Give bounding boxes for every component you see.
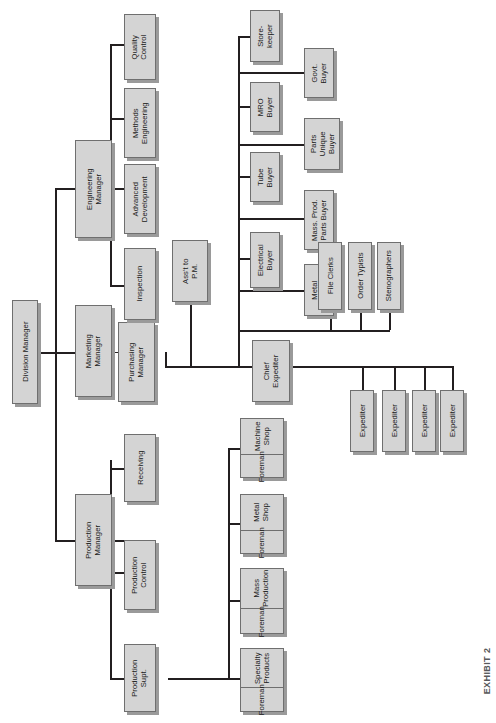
node-file-clerks[interactable]: File Clerks [318, 242, 342, 310]
connector-to-production-supt [110, 678, 124, 680]
node-label-line1: Production [131, 556, 140, 593]
node-label-line1: Production [84, 521, 93, 558]
node-label-line1: MRO [256, 98, 265, 116]
connector-to-marketing [55, 352, 75, 354]
node-expediter-4[interactable]: Expediter [440, 390, 464, 452]
node-marketing-manager[interactable]: Marketing Manager [75, 305, 112, 397]
node-expediter-2[interactable]: Expediter [382, 390, 406, 452]
node-expediter-1[interactable]: Expediter [350, 390, 374, 452]
connector-to-expediter-2 [394, 366, 396, 390]
node-label-line2: Supt. [140, 669, 149, 687]
node-electrical-buyer[interactable]: Electrical Buyer [250, 232, 280, 288]
node-order-typists[interactable]: Order Typists [348, 242, 372, 310]
node-label-line1: Quality [131, 35, 140, 59]
node-label-line2: Development [140, 176, 149, 222]
node-asst-to-pm[interactable]: Ass't to P.M. [172, 240, 208, 302]
node-label-line1: Engineering [84, 168, 93, 210]
shop-name-cell: Metal Shop [241, 495, 283, 532]
node-label-line1: Ass't to [181, 258, 190, 283]
node-inspection[interactable]: Inspection [124, 248, 156, 320]
node-mass-prod-parts-buyer[interactable]: Mass. Prod. Parts Buyer [304, 190, 334, 250]
node-label-line1: Electrical [256, 244, 265, 276]
exhibit-caption: EXHIBIT 2 [480, 623, 494, 719]
shop-foreman-cell: Foreman [241, 609, 283, 633]
node-parts-unique-buyer[interactable]: Parts Unique Buyer [304, 118, 340, 170]
shop-foreman-cell: Foreman [241, 688, 283, 712]
connector-to-methods-engineering [110, 118, 124, 120]
node-label-line1: Chief [262, 362, 271, 380]
organization-chart: Division Manager Engineering Manager Mar… [0, 0, 496, 723]
connector-to-engineering [55, 188, 75, 190]
node-storekeeper[interactable]: Store- keeper [250, 10, 280, 62]
node-label-line2: Products [262, 652, 271, 683]
connector-to-stenographers [389, 310, 391, 330]
connector-to-receiving [110, 468, 124, 470]
node-production-manager[interactable]: Production Manager [75, 494, 112, 586]
node-label-line2: Production [262, 570, 271, 607]
connector-to-electrical-buyer [238, 258, 250, 260]
connector-to-expediter-4 [452, 366, 454, 390]
node-label-line1: Machine [253, 422, 262, 451]
node-division-manager[interactable]: Division Manager [12, 300, 38, 404]
connector-to-mass-production [228, 600, 240, 602]
node-production-supt[interactable]: Production Supt. [124, 644, 156, 712]
node-stenographers[interactable]: Stenographers [377, 242, 401, 310]
node-govt-buyer[interactable]: Govt. Buyer [304, 48, 334, 98]
node-label: Order Typists [355, 253, 364, 299]
node-label-line3: Buyer [327, 134, 336, 154]
node-label-line1: Marketing [84, 334, 93, 368]
shop-name-cell: Mass Production [241, 569, 283, 610]
node-label-line2: Manager [94, 174, 103, 205]
node-label: Stenographers [384, 250, 393, 301]
node-foreman-label: Foreman [257, 684, 266, 715]
node-receiving[interactable]: Receiving [124, 434, 156, 502]
node-mro-buyer[interactable]: MRO Buyer [250, 82, 280, 132]
node-machine-shop[interactable]: Machine Shop Foreman [240, 418, 284, 478]
connector-buyers-spine [238, 36, 240, 366]
connector-to-expediter-3 [424, 366, 426, 390]
node-chief-expediter[interactable]: Chief Expediter [252, 340, 290, 402]
node-mass-production[interactable]: Mass Production Foreman [240, 568, 284, 634]
connector-division-spine [55, 188, 57, 540]
connector-to-metal-shop [228, 523, 240, 525]
node-label-line2: Buyer [265, 250, 274, 270]
connector-asst-stem [190, 300, 192, 366]
node-label-line2: Shop [262, 503, 271, 521]
node-specialty-products[interactable]: Specialty Products Foreman [240, 648, 284, 712]
node-label-line1: Tube [256, 168, 265, 185]
node-label-line2: Manager [94, 525, 103, 556]
connector-to-quality-control [110, 44, 124, 46]
node-quality-control[interactable]: Quality Control [124, 14, 156, 80]
node-expediter-3[interactable]: Expediter [412, 390, 436, 452]
node-advanced-development[interactable]: Advanced Development [124, 164, 156, 234]
node-production-control[interactable]: Production Control [124, 540, 156, 610]
node-engineering-manager[interactable]: Engineering Manager [75, 140, 112, 238]
node-label-line2: keeper [265, 24, 274, 48]
node-label: Expediter [419, 405, 428, 438]
node-label-line2: Manager [137, 347, 146, 378]
node-metal-shop[interactable]: Metal Shop Foreman [240, 494, 284, 554]
connector-to-storekeeper [238, 36, 250, 38]
connector-to-advanced-development [110, 188, 124, 190]
node-label-line1: Mass [253, 579, 262, 598]
connector-chief-expediter-bus [290, 366, 452, 368]
connector-shops-spine [228, 448, 230, 680]
connector-to-specialty-products [228, 678, 240, 680]
connector-to-production-control [110, 572, 124, 574]
shop-foreman-cell: Foreman [241, 455, 283, 477]
node-label-line2: Shop [262, 427, 271, 445]
node-label: Inspection [135, 266, 144, 302]
node-label: Receiving [135, 451, 144, 485]
node-purchasing-manager[interactable]: Purchasing Manager [118, 322, 155, 402]
node-label-line2: Buyer [319, 63, 328, 83]
node-label: Expediter [357, 405, 366, 438]
connector-to-inspection [110, 285, 124, 287]
node-label-line2: Engineering [140, 102, 149, 144]
node-label-line2: Buyer [265, 167, 274, 187]
connector-shops-bus [168, 678, 230, 680]
node-methods-engineering[interactable]: Methods Engineering [124, 88, 156, 158]
node-foreman-label: Foreman [257, 527, 266, 558]
node-label-line2: Control [140, 562, 149, 587]
node-tube-buyer[interactable]: Tube Buyer [250, 152, 280, 202]
node-label-line2: Control [140, 34, 149, 59]
